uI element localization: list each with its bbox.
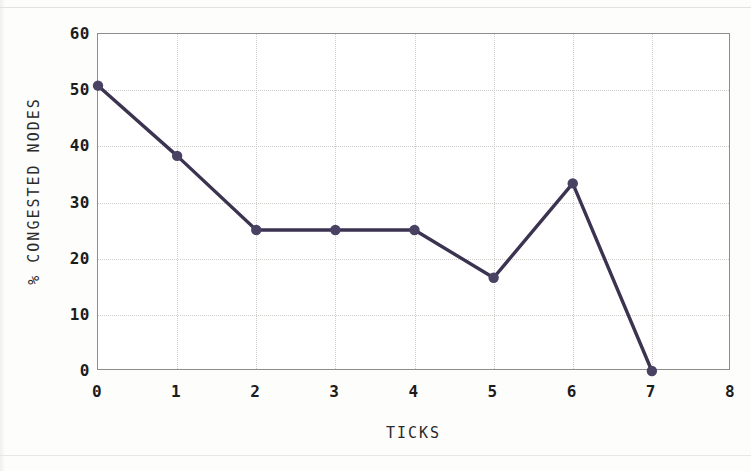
x-tick-label: 1 [156,382,196,401]
scan-artifact-top [0,7,751,8]
x-axis-title: TICKS [97,424,730,442]
data-point-marker [488,273,498,283]
chart-figure: 0102030405060 012345678 TICKS % CONGESTE… [0,0,751,471]
x-tick-label: 7 [631,382,671,401]
data-series-line [98,34,731,371]
y-tick-label: 60 [28,24,90,43]
x-tick-label: 5 [473,382,513,401]
x-tick-label: 4 [394,382,434,401]
data-point-marker [172,151,182,161]
y-tick-label: 0 [28,361,90,380]
scan-artifact-bottom [0,455,751,456]
data-point-marker [647,366,657,376]
plot-area [97,33,730,370]
x-tick-label: 0 [77,382,117,401]
x-tick-label: 3 [314,382,354,401]
data-point-marker [251,225,261,235]
series-line [98,86,652,371]
data-point-marker [568,178,578,188]
x-tick-label: 2 [235,382,275,401]
x-axis-tick-labels: 012345678 [97,382,730,406]
y-axis-title: % CONGESTED NODES [25,71,43,311]
data-point-marker [330,225,340,235]
x-tick-label: 8 [710,382,750,401]
data-point-marker [93,80,103,90]
data-point-marker [409,225,419,235]
x-tick-label: 6 [552,382,592,401]
scan-vignette [0,0,5,471]
